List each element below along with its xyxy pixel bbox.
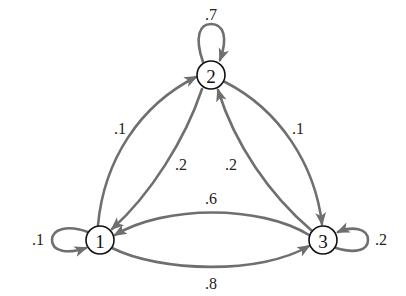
edge-1-to-1 [52, 228, 88, 251]
edge-3-to-3 [336, 229, 368, 251]
state-label-3: 3 [318, 231, 328, 252]
edge-2-to-3 [225, 82, 322, 224]
state-label-1: 1 [95, 231, 105, 252]
edge-3-to-1 [115, 213, 309, 236]
prob-label-2-1: .2 [175, 156, 187, 173]
prob-label-2-2: .7 [205, 6, 217, 23]
prob-label-3-3: .2 [375, 231, 387, 248]
prob-label-1-3: .8 [205, 275, 217, 292]
state-label-2: 2 [206, 66, 216, 87]
prob-label-2-3: .1 [292, 120, 304, 137]
state-node-2: 2 [197, 61, 225, 89]
markov-chain-diagram: 1 2 3 .7 .1 .2 .1 .2 .6 .8 .1 .2 [0, 0, 406, 296]
prob-label-1-1: .1 [32, 231, 44, 248]
state-node-1: 1 [86, 226, 114, 254]
edge-1-to-3 [112, 246, 309, 267]
edge-2-to-1 [112, 89, 202, 229]
prob-label-1-2: .1 [114, 120, 126, 137]
prob-label-3-1: .6 [205, 190, 217, 207]
prob-label-3-2: .2 [225, 156, 237, 173]
state-node-3: 3 [309, 226, 337, 254]
edge-1-to-2 [98, 77, 196, 225]
edge-2-to-2 [199, 24, 224, 62]
